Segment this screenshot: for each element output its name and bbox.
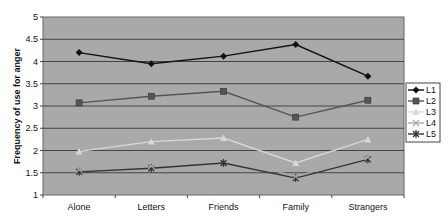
y-tick-label: 2 [33,146,38,156]
y-tick-label: 4 [33,57,38,67]
legend-label: L2 [426,96,436,106]
y-tick-label: 3 [33,101,38,111]
legend-label: L5 [426,129,436,139]
y-axis-label: Frequency of use for anger [12,47,22,164]
data-point [365,97,371,103]
y-axis-ticks: 11.522.533.544.55 [25,12,43,200]
y-tick-label: 4.5 [25,34,38,44]
y-tick-label: 1 [33,190,38,200]
y-tick-label: 1.5 [25,168,38,178]
legend-label: L1 [426,85,436,95]
legend-label: L3 [426,107,436,117]
legend-marker [413,98,419,104]
data-point [293,114,299,120]
data-point [221,88,227,94]
data-point [148,93,154,99]
y-tick-label: 2.5 [25,123,38,133]
x-tick-label: Friends [208,202,239,212]
x-axis-ticks: AloneLettersFriendsFamilyStrangers [43,195,404,212]
y-tick-label: 3.5 [25,79,38,89]
y-tick-label: 5 [33,12,38,22]
data-point [76,100,82,106]
x-tick-label: Strangers [348,202,388,212]
line-chart: 11.522.533.544.55 AloneLettersFriendsFam… [0,0,448,221]
x-tick-label: Family [282,202,309,212]
x-tick-label: Alone [68,202,91,212]
legend: L1L2L3L4L5 [406,83,440,142]
legend-label: L4 [426,118,436,128]
x-tick-label: Letters [138,202,166,212]
